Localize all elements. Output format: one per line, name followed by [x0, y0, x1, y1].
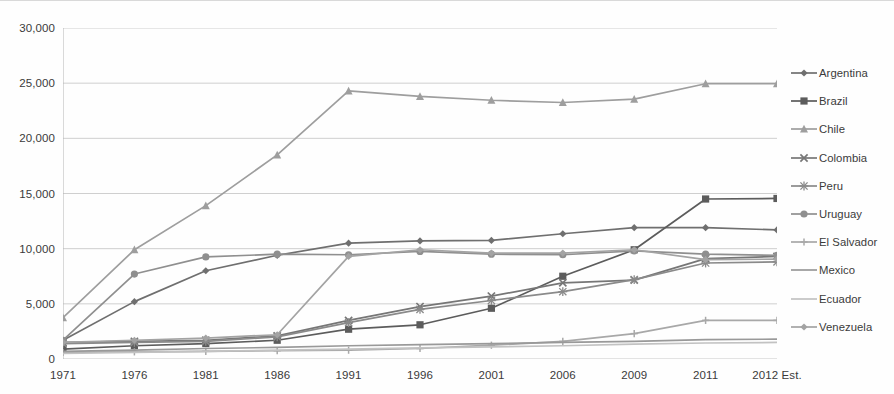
data-point-marker	[345, 240, 352, 247]
x-axis-tick-label: 2001	[478, 369, 504, 381]
x-axis: 1971197619811986199119962001200620092011…	[63, 359, 777, 394]
legend-item-peru[interactable]: Peru	[790, 172, 894, 200]
data-point-marker	[202, 267, 209, 274]
line-chart: 05,00010,00015,00020,00025,00030,000 197…	[0, 0, 894, 394]
data-point-marker	[202, 253, 209, 260]
legend-item-label: Mexico	[819, 264, 855, 276]
legend-key-swatch	[790, 263, 818, 277]
legend-item-el-salvador[interactable]: El Salvador	[790, 228, 894, 256]
plot-area	[63, 28, 777, 359]
data-point-marker	[773, 317, 777, 324]
legend-item-label: Ecuador	[819, 293, 861, 305]
y-axis-tick-label: 30,000	[19, 22, 55, 34]
series-chile	[63, 80, 777, 322]
x-axis-tick-label: 1996	[407, 369, 433, 381]
y-axis-tick-label: 5,000	[26, 298, 55, 310]
data-point-marker	[800, 210, 807, 217]
y-axis-tick-label: 20,000	[19, 132, 55, 144]
legend-item-label: El Salvador	[819, 236, 877, 248]
y-axis-tick-label: 0	[49, 353, 56, 365]
legend-item-ecuador[interactable]: Ecuador	[790, 285, 894, 313]
legend-key-swatch	[790, 94, 818, 108]
series-venezuela	[63, 246, 777, 346]
data-point-marker	[416, 237, 423, 244]
legend-key-swatch	[790, 320, 818, 334]
legend-item-label: Brazil	[819, 95, 848, 107]
data-point-marker	[630, 275, 639, 284]
data-point-marker	[344, 318, 353, 327]
series-line	[63, 84, 777, 318]
y-axis-tick-label: 25,000	[19, 77, 55, 89]
data-point-marker	[558, 287, 567, 296]
legend-item-label: Argentina	[819, 67, 868, 79]
legend-item-label: Peru	[819, 180, 843, 192]
data-point-marker	[559, 230, 566, 237]
data-point-marker	[800, 181, 809, 190]
data-point-marker	[559, 338, 566, 345]
data-point-marker	[773, 195, 777, 202]
x-axis-tick-label: 2006	[550, 369, 576, 381]
data-point-marker	[274, 251, 281, 258]
legend-key-swatch	[790, 207, 818, 221]
data-point-marker	[702, 195, 709, 202]
y-axis-tick-label: 10,000	[19, 243, 55, 255]
legend-item-label: Uruguay	[819, 208, 862, 220]
data-point-marker	[131, 270, 138, 277]
series-colombia	[63, 253, 777, 346]
legend-item-uruguay[interactable]: Uruguay	[790, 200, 894, 228]
data-point-marker	[631, 330, 638, 337]
data-point-marker	[800, 98, 807, 105]
x-axis-tick-label: 1986	[264, 369, 290, 381]
y-axis-tick-label: 15,000	[19, 188, 55, 200]
data-point-marker	[800, 69, 807, 76]
data-point-marker	[702, 317, 709, 324]
x-axis-tick-label: 1981	[193, 369, 219, 381]
y-axis: 05,00010,00015,00020,00025,00030,000	[0, 1, 63, 394]
x-axis-tick-label: 1976	[121, 369, 147, 381]
data-point-marker	[130, 246, 138, 254]
series-uruguay	[63, 247, 777, 344]
x-axis-tick-label: 2009	[621, 369, 647, 381]
data-point-marker	[416, 321, 423, 328]
data-point-marker	[488, 237, 495, 244]
series-line	[63, 262, 777, 344]
x-axis-tick-label: 2011	[693, 369, 718, 381]
data-point-marker	[488, 305, 495, 312]
data-point-marker	[416, 305, 425, 314]
x-axis-tick-label: 1971	[50, 369, 76, 381]
data-point-marker	[345, 347, 352, 354]
legend-item-colombia[interactable]: Colombia	[790, 144, 894, 172]
legend-key-swatch	[790, 179, 818, 193]
legend-item-brazil[interactable]: Brazil	[790, 87, 894, 115]
legend-item-mexico[interactable]: Mexico	[790, 256, 894, 284]
chart-legend: ArgentinaBrazilChileColombiaPeruUruguayE…	[790, 59, 894, 341]
legend-key-swatch	[790, 151, 818, 165]
legend-item-venezuela[interactable]: Venezuela	[790, 313, 894, 341]
data-point-marker	[773, 226, 777, 233]
series-line	[63, 256, 777, 342]
series-brazil	[63, 195, 777, 353]
series-line	[63, 250, 777, 343]
data-point-marker	[800, 239, 807, 246]
x-axis-tick-label: 2012 Est.	[752, 369, 802, 381]
plot-svg	[63, 28, 777, 359]
series-peru	[63, 258, 777, 348]
legend-key-swatch	[790, 292, 818, 306]
data-point-marker	[631, 224, 638, 231]
legend-key-swatch	[790, 122, 818, 136]
legend-item-argentina[interactable]: Argentina	[790, 59, 894, 87]
legend-key-swatch	[790, 235, 818, 249]
data-point-marker	[800, 323, 807, 330]
data-point-marker	[702, 224, 709, 231]
legend-item-label: Colombia	[819, 152, 867, 164]
legend-item-label: Chile	[819, 123, 845, 135]
legend-key-swatch	[790, 66, 818, 80]
data-point-marker	[487, 296, 496, 305]
data-point-marker	[559, 273, 566, 280]
x-axis-tick-label: 1991	[336, 369, 362, 381]
legend-item-label: Venezuela	[819, 321, 872, 333]
legend-item-chile[interactable]: Chile	[790, 115, 894, 143]
